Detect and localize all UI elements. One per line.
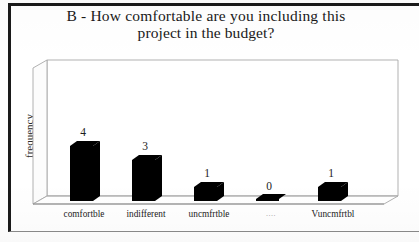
bar-value-label: 4 [71,126,95,138]
bar-value-label: 1 [319,167,343,179]
bar-side [155,155,162,201]
bar-front [70,146,93,201]
bar-vuncmfrtbl [318,182,348,201]
x-tick-label-vuncmfrtbl: Vuncmfrtbl [300,209,366,219]
x-tick-label-blank: .... [239,209,303,218]
bar-front [194,187,217,201]
bar-value-label: 3 [133,140,157,152]
bar-comfortble [70,141,100,201]
x-tick-label-comfortble: comfortble [52,209,116,219]
bar-front [256,199,279,201]
bar-front [132,160,155,201]
bar-top [256,194,286,199]
bar-front [318,187,341,201]
x-tick-label-uncmfrtble: uncmfrtble [177,209,241,219]
bar-uncmfrtble [194,182,224,201]
figure-container: B - How comfortable are you including th… [0,0,419,242]
bars-layer [0,0,419,242]
bar-indifferent [132,155,162,201]
bar-side [93,141,100,201]
bar-value-label: 1 [195,167,219,179]
x-tick-label-indifferent: indifferent [114,209,178,219]
bar-zero [256,194,286,201]
bar-value-label: 0 [257,180,281,192]
